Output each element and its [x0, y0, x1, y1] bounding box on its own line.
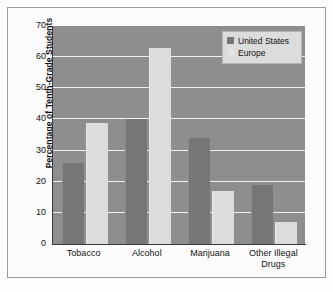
- y-tick-label: 40: [18, 114, 46, 123]
- x-axis-line: [52, 244, 306, 245]
- bar: [62, 163, 84, 244]
- chart-legend: United States Europe: [222, 31, 302, 64]
- legend-swatch-europe: [227, 49, 234, 56]
- bar: [275, 222, 297, 244]
- bar: [86, 123, 108, 244]
- y-tick-label: 0: [18, 239, 46, 248]
- bar: [125, 119, 147, 244]
- bar: [149, 48, 171, 244]
- bar: [251, 185, 273, 244]
- legend-item: Europe: [227, 47, 297, 58]
- y-tick-label: 20: [18, 177, 46, 186]
- chart-figure: Percentage of Tenth-Grade Students 01020…: [0, 0, 333, 292]
- bar: [212, 191, 234, 244]
- gridline: [53, 118, 305, 119]
- legend-swatch-united-states: [227, 37, 234, 44]
- bar: [188, 138, 210, 244]
- y-tick-label: 70: [18, 21, 46, 30]
- y-tick-label: 60: [18, 52, 46, 61]
- y-tick-label: 50: [18, 83, 46, 92]
- y-tick-label: 10: [18, 208, 46, 217]
- gridline: [53, 87, 305, 88]
- legend-label-europe: Europe: [238, 48, 265, 58]
- legend-label-united-states: United States: [238, 36, 289, 46]
- x-tick-label: Other IllegalDrugs: [233, 248, 313, 269]
- y-tick-label: 30: [18, 146, 46, 155]
- legend-item: United States: [227, 35, 297, 46]
